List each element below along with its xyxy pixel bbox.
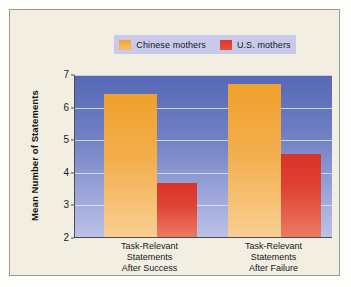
chart-legend: Chinese mothers U.S. mothers (114, 35, 296, 54)
legend-item-chinese-mothers: Chinese mothers (119, 40, 206, 50)
legend-label-us-mothers: U.S. mothers (237, 40, 291, 50)
y-axis-title-text: Mean Number of Statements (29, 90, 40, 221)
legend-swatch-icon-chinese-mothers (119, 40, 131, 50)
legend-swatch-icon-us-mothers (220, 40, 232, 50)
y-tick-mark (71, 75, 74, 76)
y-tick-label: 4 (63, 168, 69, 178)
plot-wrapper: 234567 Task-Relevant Statements After Su… (74, 75, 332, 238)
y-tick-mark (71, 238, 74, 239)
gridline (75, 75, 332, 76)
bar-chinese-mothers-group-1 (104, 94, 157, 237)
y-axis-title: Mean Number of Statements (27, 70, 41, 240)
x-category-label-2: Task-Relevant Statements After Failure (214, 241, 334, 274)
plot-area (74, 75, 332, 238)
y-tick-label: 7 (63, 70, 69, 80)
y-tick-mark (71, 205, 74, 206)
figure-frame: Chinese mothers U.S. mothers Mean Number… (9, 9, 340, 276)
bar-chinese-mothers-group-2 (228, 84, 281, 237)
y-tick-label: 2 (63, 233, 69, 243)
y-tick-label: 3 (63, 200, 69, 210)
bar-us-mothers-group-2 (281, 154, 321, 237)
y-tick-mark (71, 172, 74, 173)
bar-us-mothers-group-1 (157, 183, 197, 237)
y-tick-mark (71, 107, 74, 108)
x-category-label-1: Task-Relevant Statements After Success (90, 241, 210, 274)
y-tick-label: 5 (63, 135, 69, 145)
y-tick-label: 6 (63, 103, 69, 113)
legend-label-chinese-mothers: Chinese mothers (136, 40, 206, 50)
chart-figure: Chinese mothers U.S. mothers Mean Number… (0, 0, 351, 287)
legend-item-us-mothers: U.S. mothers (220, 40, 291, 50)
y-tick-mark (71, 140, 74, 141)
